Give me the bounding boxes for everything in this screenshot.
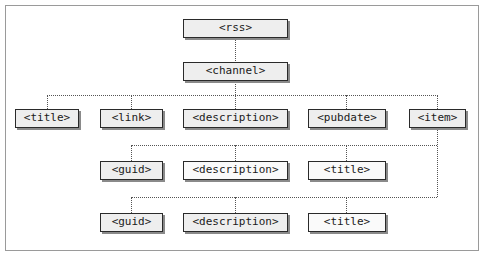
connector-rss-channel [235,37,236,63]
connector-channel-down [235,80,236,95]
node-channel-link: <link> [100,109,163,128]
node-channel-item: <item> [409,109,466,128]
node-item1-guid: <guid> [100,161,163,180]
connector-to-item [437,95,438,109]
connector-item1-guid [131,145,132,161]
node-channel-description: <description> [183,109,288,128]
node-item1-title: <title> [308,161,386,180]
node-item2-guid: <guid> [100,213,163,232]
connector-item2-title [346,197,347,213]
connector-channel-children-bus [47,95,438,96]
node-item2-title: <title> [308,213,386,232]
connector-to-link [131,95,132,109]
node-item1-description: <description> [183,161,288,180]
connector-item2-bus [131,197,437,198]
connector-item1-bus [131,145,437,146]
node-channel-title: <title> [15,109,79,128]
connector-to-description [235,95,236,109]
connector-item2-guid [131,197,132,213]
node-item2-description: <description> [183,213,288,232]
connector-to-pubdate [346,95,347,109]
node-channel-pubdate: <pubdate> [308,109,386,128]
connector-item-down [437,128,438,197]
node-channel: <channel> [183,62,288,81]
connector-item1-description [235,145,236,161]
connector-item2-description [235,197,236,213]
connector-item1-title [346,145,347,161]
connector-to-title [47,95,48,109]
node-rss: <rss> [183,19,288,38]
